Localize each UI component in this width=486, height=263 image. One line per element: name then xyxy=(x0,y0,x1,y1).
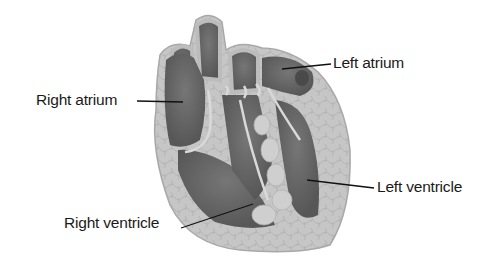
label-left-atrium: Left atrium xyxy=(333,55,404,71)
label-left-ventricle: Left ventricle xyxy=(377,179,462,195)
label-right-atrium: Right atrium xyxy=(36,92,117,108)
heart-diagram: Right atrium Left atrium Left ventricle … xyxy=(0,0,486,263)
pulmonary-vein-opening xyxy=(295,70,309,86)
label-right-ventricle: Right ventricle xyxy=(64,215,159,231)
